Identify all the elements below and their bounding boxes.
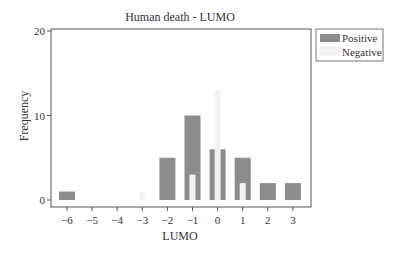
bar-positive [159, 158, 175, 200]
x-tick-label: −1 [187, 214, 199, 226]
chart-title: Human death - LUMO [125, 10, 235, 24]
y-axis: 01020 [34, 25, 51, 206]
x-axis: −6−5−4−3−2−10123 [61, 207, 296, 226]
x-axis-label: LUMO [162, 229, 198, 243]
x-tick-label: 3 [290, 214, 296, 226]
bar-negative [190, 175, 196, 200]
x-tick-label: −4 [111, 214, 123, 226]
legend-label-positive: Positive [342, 32, 378, 44]
legend: Positive Negative [316, 29, 383, 61]
legend-swatch-positive [320, 34, 340, 42]
plot-area [51, 29, 311, 207]
x-tick-label: −3 [136, 214, 148, 226]
y-tick-label: 10 [34, 110, 46, 122]
bar-positive [285, 183, 301, 200]
x-tick-label: −5 [86, 214, 98, 226]
x-tick-label: 0 [215, 214, 221, 226]
x-tick-label: −2 [162, 214, 174, 226]
y-axis-label: Frequency [17, 91, 31, 142]
bar-positive [260, 183, 276, 200]
bar-positive [59, 192, 75, 200]
legend-swatch-negative [320, 47, 340, 55]
bar-negative [215, 90, 221, 200]
bar-negative [240, 183, 246, 200]
bars-group [59, 90, 301, 200]
y-tick-label: 0 [40, 194, 46, 206]
x-tick-label: −6 [61, 214, 73, 226]
histogram-chart: Human death - LUMO 01020 −6−5−4−3−2−1012… [0, 0, 406, 256]
legend-label-negative: Negative [342, 46, 382, 58]
y-tick-label: 20 [34, 25, 46, 37]
bar-negative [139, 192, 145, 200]
x-tick-label: 1 [240, 214, 246, 226]
x-tick-label: 2 [265, 214, 271, 226]
